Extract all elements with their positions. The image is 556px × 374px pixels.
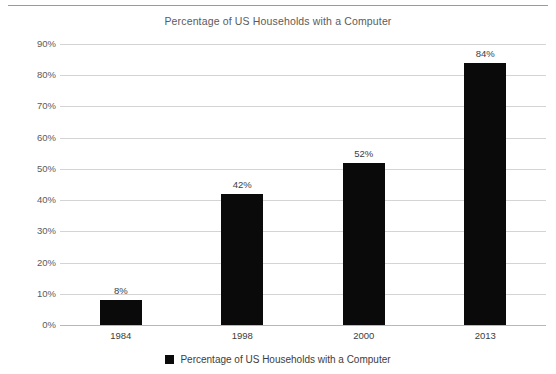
bar-value-label: 52% <box>334 148 394 159</box>
x-axis-tick-label: 1984 <box>81 330 161 341</box>
y-axis-tick-label: 70% <box>4 100 56 111</box>
legend-swatch-icon <box>165 355 174 364</box>
bar-chart: Percentage of US Households with a Compu… <box>0 0 556 374</box>
y-axis-tick-label: 60% <box>4 132 56 143</box>
gridline <box>60 325 546 326</box>
bar[interactable] <box>343 163 385 325</box>
x-axis-tick-label: 2000 <box>324 330 404 341</box>
bar[interactable] <box>100 300 142 325</box>
y-axis-tick-label: 90% <box>4 38 56 49</box>
x-axis-tick-label: 1998 <box>202 330 282 341</box>
y-axis-tick-label: 80% <box>4 69 56 80</box>
gridline <box>60 44 546 45</box>
bar[interactable] <box>221 194 263 325</box>
bar-value-label: 8% <box>91 285 151 296</box>
y-axis-tick-label: 20% <box>4 257 56 268</box>
y-axis-tick-label: 40% <box>4 194 56 205</box>
y-axis-tick-label: 10% <box>4 288 56 299</box>
y-axis-tick-label: 50% <box>4 163 56 174</box>
bar-value-label: 84% <box>455 48 515 59</box>
legend-label: Percentage of US Households with a Compu… <box>180 354 390 365</box>
plot-area: 0%10%20%30%40%50%60%70%80%90% 8%42%52%84… <box>0 0 556 374</box>
chart-legend: Percentage of US Households with a Compu… <box>0 354 556 365</box>
bar[interactable] <box>464 63 506 325</box>
y-axis-tick-label: 30% <box>4 225 56 236</box>
x-axis-tick-label: 2013 <box>445 330 525 341</box>
y-axis-tick-label: 0% <box>4 319 56 330</box>
bar-value-label: 42% <box>212 179 272 190</box>
